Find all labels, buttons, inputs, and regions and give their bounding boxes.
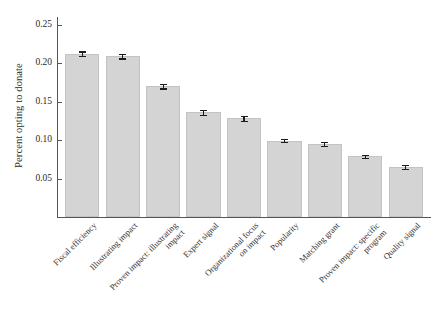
y-axis-tick-mark bbox=[58, 25, 62, 26]
y-axis-tick-label: 0.15 bbox=[22, 97, 52, 107]
bar-chart: Percent opting to donate 0.050.100.150.2… bbox=[0, 0, 437, 325]
error-bar-cap-top bbox=[362, 155, 369, 156]
error-bar-cap-top bbox=[321, 142, 328, 143]
error-bar-cap-bottom bbox=[362, 158, 369, 159]
bar bbox=[106, 56, 140, 217]
bar bbox=[65, 54, 99, 217]
error-bar-cap-top bbox=[119, 54, 126, 55]
error-bar-cap-top bbox=[200, 110, 207, 111]
y-axis-tick-mark bbox=[58, 179, 62, 180]
error-bar-cap-top bbox=[402, 165, 409, 166]
y-axis-tick-label: 0.05 bbox=[22, 174, 52, 184]
y-axis-tick-label: 0.20 bbox=[22, 58, 52, 68]
error-bar-cap-top bbox=[241, 116, 248, 117]
error-bar-cap-bottom bbox=[79, 56, 86, 57]
y-axis-tick-label: 0.10 bbox=[22, 135, 52, 145]
error-bar-cap-bottom bbox=[160, 88, 167, 89]
y-axis-tick-mark bbox=[58, 140, 62, 141]
error-bar-cap-bottom bbox=[200, 115, 207, 116]
error-bar-cap-bottom bbox=[119, 58, 126, 59]
error-bar-cap-bottom bbox=[321, 146, 328, 147]
y-axis-tick-mark bbox=[58, 102, 62, 103]
bar bbox=[146, 86, 180, 217]
error-bar-cap-bottom bbox=[281, 142, 288, 143]
bar bbox=[267, 141, 301, 217]
error-bar-cap-top bbox=[79, 51, 86, 52]
x-axis-line bbox=[57, 217, 431, 218]
bar bbox=[308, 144, 342, 217]
bar bbox=[186, 112, 220, 217]
error-bar-cap-top bbox=[160, 84, 167, 85]
y-axis-tick-label: 0.25 bbox=[22, 20, 52, 30]
y-axis-line bbox=[57, 17, 58, 218]
error-bar-cap-bottom bbox=[402, 169, 409, 170]
y-axis-tick-mark bbox=[58, 63, 62, 64]
error-bar-cap-bottom bbox=[241, 121, 248, 122]
bar bbox=[389, 167, 423, 217]
bar bbox=[348, 156, 382, 217]
error-bar-cap-top bbox=[281, 139, 288, 140]
x-axis-tick-label: Fiscal efficiency bbox=[9, 221, 99, 311]
bar bbox=[227, 118, 261, 217]
